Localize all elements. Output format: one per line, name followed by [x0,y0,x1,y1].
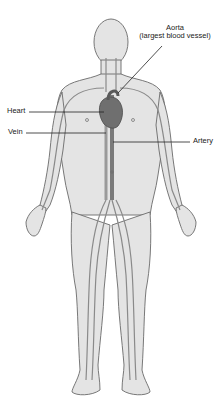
head [94,19,128,65]
heart-label: Heart [7,107,25,115]
aorta-label: Aorta (largest blood vessel) [134,24,216,41]
aorta-label-line2: (largest blood vessel) [134,32,216,40]
vein-label: Vein [8,128,23,136]
artery-label: Artery [193,137,213,145]
circulatory-system-figure [0,0,223,405]
right-hand [176,205,196,236]
right-leg [112,212,151,395]
left-hand [26,205,46,236]
body-silhouette [26,19,196,395]
left-leg [71,212,110,395]
